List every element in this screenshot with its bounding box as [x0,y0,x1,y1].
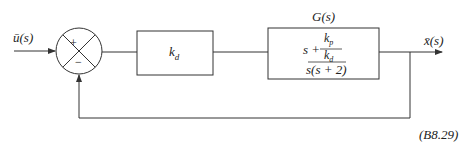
plant-denominator: s(s + 2) [306,62,347,78]
plant-title: G(s) [312,9,335,25]
feedback-path [79,52,410,118]
plus-sign: + [70,36,77,51]
input-label: ū(s) [13,30,33,46]
equation-number: (B8.29) [419,127,458,143]
controller-label: kd [169,44,179,62]
controller-sub-d: d [175,52,180,62]
block-diagram [0,0,465,148]
minus-sign: − [75,55,82,70]
plant-kp: kp [324,31,333,47]
plant-numerator-lead: s + [303,42,320,58]
output-label: x̄(s) [424,33,444,49]
kp-sub-p: p [329,38,333,47]
